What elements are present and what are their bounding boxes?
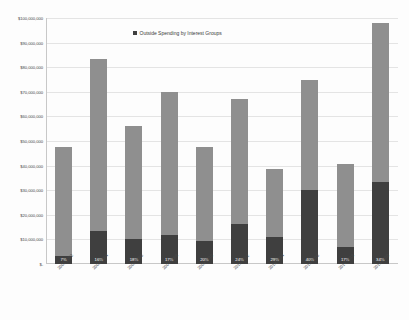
x-axis-tick: 2007-2008	[161, 265, 178, 315]
bar-segment-other-spending[interactable]	[301, 80, 318, 191]
chart-container: $100,000,000$90,000,000$80,000,000$70,00…	[0, 0, 409, 320]
bar-segment-other-spending[interactable]	[125, 126, 142, 239]
legend-swatch-icon	[133, 31, 137, 35]
x-axis-tick: 2019-2020	[372, 265, 389, 315]
y-axis-tick-label: $30,000,000	[20, 188, 43, 193]
bar-segment-other-spending[interactable]	[266, 169, 283, 236]
y-axis-tick-label: $90,000,000	[20, 40, 43, 45]
bar-group[interactable]: 20%	[196, 18, 213, 264]
bar-stack[interactable]: 16%	[90, 59, 107, 264]
y-axis-tick-label: $20,000,000	[20, 212, 43, 217]
x-axis-tick: 2001-2002	[55, 265, 72, 315]
y-axis-tick-label: $-	[39, 262, 43, 267]
bar-stack[interactable]: 40%	[301, 80, 318, 264]
bar-group[interactable]: 40%	[301, 18, 318, 264]
bar-segment-other-spending[interactable]	[372, 23, 389, 182]
chart-legend: Outside Spending by Interest Groups	[133, 30, 222, 36]
y-axis-tick-label: $50,000,000	[20, 139, 43, 144]
bar-stack[interactable]: 34%	[372, 23, 389, 264]
bar-segment-other-spending[interactable]	[231, 99, 248, 224]
bar-segment-other-spending[interactable]	[55, 147, 72, 256]
bar-group[interactable]: 34%	[372, 18, 389, 264]
bar-stack[interactable]: 24%	[231, 99, 248, 264]
bar-segment-other-spending[interactable]	[90, 59, 107, 232]
bar-group[interactable]: 7%	[55, 18, 72, 264]
x-axis: 2001-20022003-20042005-20062007-20082009…	[46, 265, 398, 315]
bar-segment-other-spending[interactable]	[337, 164, 354, 247]
x-axis-tick: 2005-2006	[125, 265, 142, 315]
y-axis-tick-label: $70,000,000	[20, 89, 43, 94]
bar-group[interactable]: 24%	[231, 18, 248, 264]
y-axis-tick-label: $60,000,000	[20, 114, 43, 119]
x-axis-tick: 2015-2016	[301, 265, 318, 315]
bar-group[interactable]: 17%	[337, 18, 354, 264]
bar-stack[interactable]: 17%	[337, 164, 354, 264]
y-axis-tick-label: $80,000,000	[20, 65, 43, 70]
bar-segment-other-spending[interactable]	[161, 92, 178, 235]
bar-stack[interactable]: 20%	[196, 147, 213, 264]
y-axis-tick-label: $100,000,000	[18, 16, 43, 21]
y-axis-tick-label: $40,000,000	[20, 163, 43, 168]
x-axis-tick: 2009-2010	[196, 265, 213, 315]
bar-group[interactable]: 29%	[266, 18, 283, 264]
legend-label: Outside Spending by Interest Groups	[140, 30, 222, 36]
x-axis-tick: 2003-2004	[90, 265, 107, 315]
x-axis-tick: 2017-2018	[337, 265, 354, 315]
bar-stack[interactable]: 18%	[125, 126, 142, 264]
y-axis: $100,000,000$90,000,000$80,000,000$70,00…	[0, 18, 43, 264]
bar-group[interactable]: 17%	[161, 18, 178, 264]
x-axis-tick: 2013-2014	[266, 265, 283, 315]
bars-layer: 7%16%18%17%20%24%29%40%17%34%	[46, 18, 398, 264]
x-axis-tick: 2011-2012	[231, 265, 248, 315]
bar-stack[interactable]: 17%	[161, 92, 178, 264]
bar-segment-other-spending[interactable]	[196, 147, 213, 240]
bar-group[interactable]: 18%	[125, 18, 142, 264]
bar-stack[interactable]: 29%	[266, 169, 283, 264]
bar-stack[interactable]: 7%	[55, 147, 72, 264]
y-axis-tick-label: $10,000,000	[20, 237, 43, 242]
bar-group[interactable]: 16%	[90, 18, 107, 264]
